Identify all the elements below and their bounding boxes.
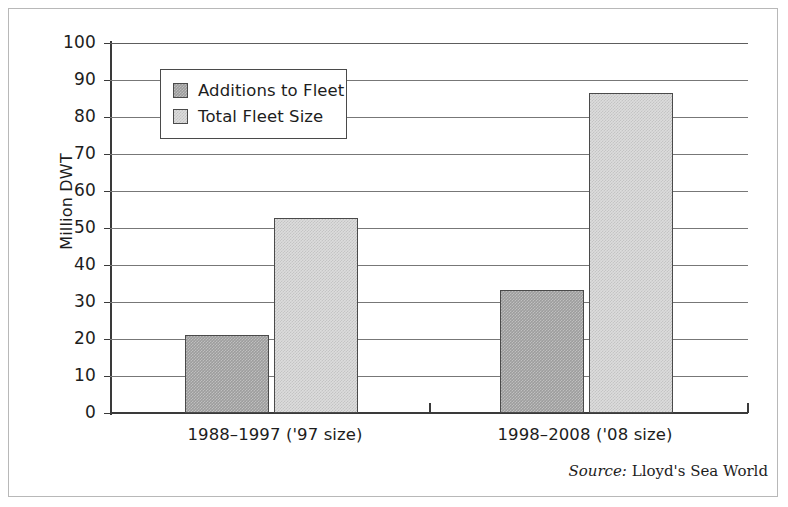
y-tick-label-50: 50	[30, 217, 96, 237]
legend-swatch-total-icon	[173, 109, 188, 124]
y-tick-label-80: 80	[30, 106, 96, 126]
gridline-100	[110, 43, 748, 44]
y-tick-label-0: 0	[30, 402, 96, 422]
legend-item-total[interactable]: Total Fleet Size	[173, 103, 336, 129]
source-note: Source: Lloyd's Sea World	[568, 462, 768, 480]
legend-label-additions: Additions to Fleet	[198, 81, 344, 100]
y-tick-label-20: 20	[30, 328, 96, 348]
y-tick-label-30: 30	[30, 291, 96, 311]
chart-legend: Additions to Fleet Total Fleet Size	[160, 69, 347, 139]
chart-figure: Million DWT 1009080706050403020100 Addit…	[0, 0, 788, 507]
y-tick-label-90: 90	[30, 69, 96, 89]
source-value: Lloyd's Sea World	[627, 462, 768, 480]
bar-additions-group-1[interactable]	[500, 290, 584, 413]
y-tick-label-100: 100	[30, 32, 96, 52]
y-tick-label-40: 40	[30, 254, 96, 274]
source-label: Source:	[568, 462, 626, 480]
x-axis-category-label-0: 1988–1997 ('97 size)	[140, 425, 410, 444]
y-tick-label-10: 10	[30, 365, 96, 385]
bar-total-group-0[interactable]	[274, 218, 358, 413]
legend-swatch-additions-icon	[173, 83, 188, 98]
y-tick-label-60: 60	[30, 180, 96, 200]
bar-total-group-1[interactable]	[589, 93, 673, 413]
x-tick-mark-1	[747, 403, 749, 413]
x-tick-mark-0	[429, 403, 431, 413]
legend-label-total: Total Fleet Size	[198, 107, 323, 126]
bar-additions-group-0[interactable]	[185, 335, 269, 413]
y-tick-label-70: 70	[30, 143, 96, 163]
x-axis-category-label-1: 1998–2008 ('08 size)	[450, 425, 720, 444]
legend-item-additions[interactable]: Additions to Fleet	[173, 77, 336, 103]
